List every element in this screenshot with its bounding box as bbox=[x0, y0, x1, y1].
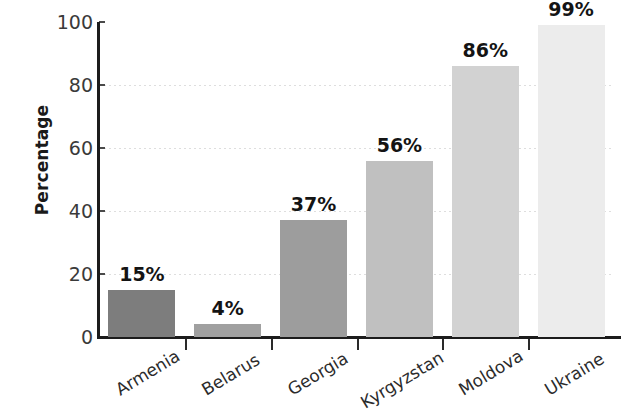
x-axis-tick-mark bbox=[271, 339, 273, 350]
bar bbox=[280, 220, 347, 337]
bar bbox=[366, 161, 433, 337]
bar bbox=[538, 25, 605, 337]
bar bbox=[452, 66, 519, 337]
bar-value-label: 86% bbox=[440, 41, 530, 60]
bar-value-label: 15% bbox=[97, 265, 187, 284]
bar-value-label: 4% bbox=[183, 299, 273, 318]
bar-value-label: 37% bbox=[269, 195, 359, 214]
x-axis-tick-mark bbox=[442, 339, 444, 350]
x-axis-tick-mark bbox=[528, 339, 530, 350]
bar bbox=[194, 324, 261, 337]
bar-value-label: 56% bbox=[354, 136, 444, 155]
bar-value-label: 99% bbox=[526, 0, 616, 19]
x-axis-tick-mark bbox=[185, 339, 187, 350]
x-axis-tick-mark bbox=[357, 339, 359, 350]
bar bbox=[108, 290, 175, 337]
